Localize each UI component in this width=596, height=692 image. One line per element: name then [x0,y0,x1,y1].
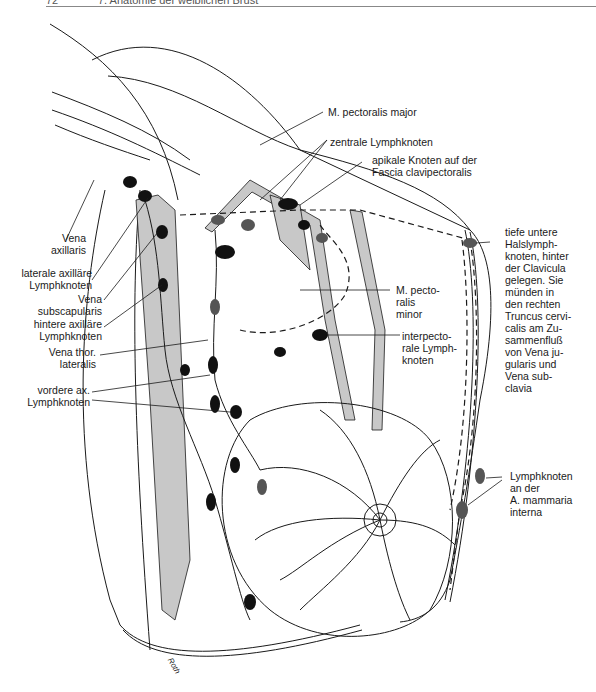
shoulder-arc [92,47,300,150]
label-line: Vena sub- [505,370,571,382]
breast-outline [222,403,452,637]
breast-lobe-3 [300,520,380,610]
lymph-node [215,245,235,259]
lymph-node [278,198,298,210]
arm-outline-upper [50,24,178,200]
label-line: vordere ax. [20,384,90,396]
label-line: Lymphknoten [10,279,92,291]
label-line: subscapularis [10,305,102,317]
breast-lobe-2 [255,518,380,540]
label-vena-thor-lateralis: Vena thor. lateralis [20,346,96,370]
label-line: Truncus cervi- [505,310,571,322]
label-line: an der [510,482,573,494]
lymph-vessel-mammaria-2 [450,240,467,510]
pectoralis-minor-strip [350,210,385,430]
label-line: knoten [402,354,457,366]
label-line: calis am Zu- [505,322,571,334]
leader-line [486,477,502,478]
label-line: Halslymph- [505,238,571,250]
breast-lobe-6 [380,440,440,520]
label-line: Vena [26,232,86,244]
leader-line [468,480,502,505]
label-line: von Vena ju- [505,346,571,358]
label-line: Fascia clavipectoralis [372,166,477,178]
lymph-node [312,329,328,341]
lymph-node-stippled [211,215,225,225]
label-line: knoten, hinter [505,250,571,262]
lymph-node [274,347,286,357]
label-hintere-axillaere-lymphknoten: hintere axilläre Lymphknoten [10,318,102,342]
label-line: sammenfluß [505,334,571,346]
lymph-node [208,356,218,374]
sternum-line [445,230,473,600]
breast-lobe-1 [260,467,380,520]
label-m-pectoralis-minor: M. pecto- ralis minor [396,284,440,320]
lymph-node [206,493,216,511]
lymph-vessel-lateral [214,230,260,470]
label-line: münden in [505,286,571,298]
label-line: der Clavicula [505,262,571,274]
label-line: Vena [10,293,102,305]
label-laterale-axillaere-lymphknoten: laterale axilläre Lymphknoten [10,267,92,291]
lymph-node [244,594,256,610]
leader-line [300,162,362,205]
lymph-node-stippled [210,299,220,315]
lymph-node [123,176,137,188]
lymph-node [298,220,310,230]
label-line: Lymphknoten [10,330,102,342]
lymph-node-stippled [257,479,267,495]
label-line: laterale axilläre [10,267,92,279]
label-line: gularis und [505,358,571,370]
label-line: axillaris [26,244,86,256]
clavicle-line [300,150,491,622]
label-vena-subscapularis: Vena subscapularis [10,293,102,317]
label-line: clavia [505,382,571,394]
chest-bottom [120,625,360,651]
label-apikale-knoten: apikale Knoten auf der Fascia clavipecto… [372,154,477,178]
lymph-node [138,190,152,202]
label-vordere-ax-lymphknoten: vordere ax. Lymphknoten [20,384,90,408]
lymph-node-stippled [475,468,485,484]
lymph-node-stippled [463,238,477,248]
label-line: rale Lymph- [402,342,457,354]
leader-line [260,112,323,145]
label-interpectorale-lymphknoten: interpecto- rale Lymph- knoten [402,330,457,366]
label-line: Lymphknoten [20,396,90,408]
label-line: minor [396,308,440,320]
leader-line [476,242,490,243]
lymph-node-stippled [241,219,255,231]
lymph-node-stippled [316,233,328,243]
breast-lobe-5 [380,520,455,545]
label-line: tiefe untere [505,226,571,238]
label-line: Vena thor. [20,346,96,358]
breast-lobe-8 [280,520,380,580]
label-line: M. pectoralis major [328,106,417,118]
label-lymphknoten-a-mammaria-interna: Lymphknoten an der A. mammaria interna [510,470,573,518]
lymph-node [180,364,190,376]
breast-lobe-7 [320,410,380,520]
lymph-node [158,278,168,292]
lymph-node [230,405,242,419]
label-zentrale-lymphknoten: zentrale Lymphknoten [330,136,433,148]
axilla-line [55,125,150,160]
label-line: hintere axilläre [10,318,102,330]
label-line: A. mammaria [510,494,573,506]
leader-line [66,180,94,240]
label-line: lateralis [20,358,96,370]
label-line: apikale Knoten auf der [372,154,477,166]
label-line: M. pecto- [396,284,440,296]
label-line: interpecto- [402,330,457,342]
label-vena-axillaris: Vena axillaris [26,232,86,256]
lymph-node-stippled [456,501,468,519]
label-line: zentrale Lymphknoten [330,136,433,148]
arm-edge-2 [52,110,200,175]
label-line: den rechten [505,298,571,310]
label-line: interna [510,506,573,518]
label-line: gelegen. Sie [505,274,571,286]
label-tiefe-untere-halslymphknoten: tiefe untere Halslymph- knoten, hinter d… [505,226,571,394]
label-line: ralis [396,296,440,308]
label-line: Lymphknoten [510,470,573,482]
lymph-node [230,457,240,473]
label-m-pectoralis-major: M. pectoralis major [328,106,417,118]
leader-line [260,140,327,200]
